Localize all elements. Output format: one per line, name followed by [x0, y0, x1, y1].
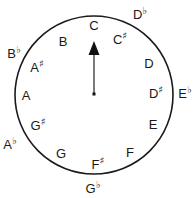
- note-letter: D: [144, 56, 153, 71]
- sharp-icon: ♯: [122, 30, 127, 41]
- note-label-db: D♭: [133, 6, 147, 21]
- note-label-eb: E♭: [178, 85, 191, 100]
- sharp-icon: ♯: [39, 58, 44, 69]
- note-letter: F: [92, 157, 100, 172]
- note-label-c: C: [89, 19, 98, 32]
- flat-icon: ♭: [96, 179, 101, 190]
- flat-icon: ♭: [142, 5, 147, 16]
- note-label-e: E: [149, 118, 158, 131]
- note-letter: D: [149, 86, 158, 101]
- note-letter: A: [30, 60, 39, 75]
- note-letter: F: [126, 145, 134, 160]
- note-letter: C: [89, 18, 98, 33]
- note-label-a: A: [22, 89, 31, 102]
- note-letter: E: [149, 117, 158, 132]
- note-letter: G: [31, 118, 41, 133]
- note-letter: G: [86, 181, 96, 196]
- note-label-as: A♯: [30, 59, 44, 74]
- note-label-ds: D♯: [149, 85, 163, 100]
- note-label-g: G: [56, 147, 66, 160]
- flat-icon: ♭: [187, 84, 192, 95]
- pitch-circle-diagram: CC♯DD♯EFF♯GG♯AA♯BD♭E♭G♭A♭B♭: [0, 0, 196, 198]
- note-letter: A: [3, 137, 12, 152]
- sharp-icon: ♯: [41, 116, 46, 127]
- pointer-arrowhead-icon: [89, 41, 100, 55]
- sharp-icon: ♯: [100, 155, 105, 166]
- flat-icon: ♭: [16, 44, 21, 55]
- note-label-cs: C♯: [113, 31, 127, 46]
- note-letter: G: [56, 146, 66, 161]
- note-label-d: D: [144, 57, 153, 70]
- note-label-f: F: [126, 146, 134, 159]
- note-label-ab: A♭: [3, 136, 16, 151]
- note-label-bb: B♭: [7, 45, 20, 60]
- note-label-gs: G♯: [31, 117, 46, 132]
- note-label-fs: F♯: [92, 156, 105, 171]
- note-label-b: B: [59, 35, 68, 48]
- sharp-icon: ♯: [158, 84, 163, 95]
- note-letter: E: [178, 86, 187, 101]
- note-letter: A: [22, 88, 31, 103]
- flat-icon: ♭: [12, 135, 17, 146]
- note-letter: B: [59, 34, 68, 49]
- note-letter: B: [7, 46, 16, 61]
- note-letter: D: [133, 7, 142, 22]
- pointer-pivot-dot: [93, 93, 96, 96]
- note-label-gb: G♭: [86, 180, 101, 195]
- note-letter: C: [113, 32, 122, 47]
